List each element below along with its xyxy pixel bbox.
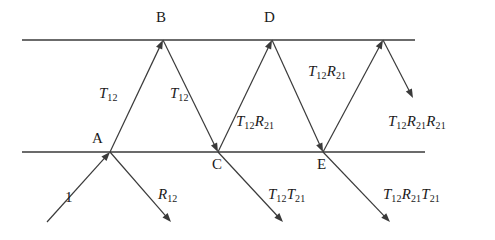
ray-D-to-E [272, 40, 323, 152]
arrowhead [406, 88, 413, 98]
point-label-A: A [92, 131, 103, 146]
point-label-E: E [317, 157, 326, 172]
label-T12T21: T12T21 [268, 187, 306, 202]
label-T12R21-left: T12R21 [236, 114, 274, 129]
ray-F-down [383, 40, 413, 98]
label-T12-left: T12 [99, 86, 118, 101]
label-incident-1: 1 [65, 190, 73, 205]
ray-C-to-D [218, 40, 272, 152]
ray-E-transmitted [323, 152, 390, 222]
ray-E-to-F [323, 40, 383, 152]
label-T12R21T21: T12R21T21 [383, 187, 440, 202]
point-label-C: C [212, 157, 222, 172]
incident-ray [47, 152, 110, 222]
arrowhead [376, 40, 383, 50]
arrowhead [156, 40, 163, 50]
label-T12R21R21: T12R21R21 [388, 114, 446, 129]
arrowhead [211, 142, 218, 152]
label-T12-right: T12 [170, 86, 189, 101]
label-R12: R12 [158, 187, 178, 202]
arrowhead [316, 142, 323, 152]
arrowhead [265, 40, 272, 50]
ray-diagram-figure: ABCDE1R12T12T12T12T21T12R21T12R21T12R21R… [0, 0, 495, 240]
point-label-D: D [264, 10, 275, 25]
point-label-B: B [156, 10, 166, 25]
label-T12R21-upper: T12R21 [308, 64, 346, 79]
